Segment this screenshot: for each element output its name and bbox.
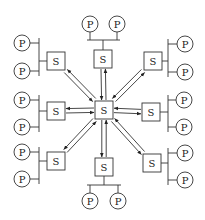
- processor-bottom: P: [82, 193, 98, 209]
- processor-label: P: [181, 122, 188, 133]
- switch-label: S: [100, 54, 107, 65]
- processor-label: P: [87, 196, 94, 207]
- link-out-upper-left: [67, 69, 95, 98]
- switch-label: S: [53, 156, 60, 167]
- link-in-lower-right: [115, 119, 145, 152]
- switch-upper-left: S: [47, 52, 65, 70]
- link-in-upper-right: [112, 69, 141, 98]
- link-in-lower-left: [67, 122, 96, 153]
- processor-lower-left: P: [14, 171, 30, 187]
- processor-upper-left: P: [14, 63, 30, 79]
- switch-label: S: [149, 158, 156, 169]
- switch-bottom: S: [95, 158, 113, 176]
- switch-label: S: [53, 56, 60, 67]
- switch-middle-right: S: [142, 103, 160, 121]
- processor-label: P: [114, 19, 121, 30]
- switch-label: S: [53, 106, 60, 117]
- switch-middle-left: S: [47, 102, 65, 120]
- link-in-top: [101, 69, 102, 100]
- switch-label: S: [101, 105, 108, 116]
- processor-lower-right: P: [177, 172, 193, 188]
- processor-label: P: [182, 148, 189, 159]
- link-out-lower-right: [111, 121, 141, 154]
- processor-label: P: [19, 147, 26, 158]
- processor-lower-left: P: [14, 144, 30, 160]
- processor-label: P: [19, 38, 26, 49]
- switch-upper-right: S: [144, 52, 162, 70]
- processor-label: P: [19, 66, 26, 77]
- processor-upper-left: P: [14, 35, 30, 51]
- link-out-top: [105, 69, 106, 100]
- processor-upper-right: P: [177, 36, 193, 52]
- processor-upper-right: P: [177, 64, 193, 80]
- switch-top: S: [94, 50, 112, 68]
- link-out-upper-right: [116, 73, 145, 102]
- link-in-middle-right: [114, 108, 141, 109]
- processor-label: P: [19, 95, 26, 106]
- switch-label: S: [150, 56, 157, 67]
- switch-lower-left: S: [47, 152, 65, 170]
- processor-label: P: [181, 95, 188, 106]
- processor-middle-left: P: [14, 92, 30, 108]
- processor-middle-right: P: [176, 119, 192, 135]
- star-network-diagram: SSSSSSSSSPPPPPPPPPPPPPPPP: [0, 0, 205, 220]
- processor-label: P: [87, 19, 94, 30]
- processor-label: P: [182, 39, 189, 50]
- switch-lower-right: S: [143, 154, 161, 172]
- link-out-lower-left: [64, 118, 93, 149]
- processor-lower-right: P: [177, 145, 193, 161]
- link-in-upper-left: [64, 73, 92, 102]
- processor-label: P: [19, 174, 26, 185]
- nodes: SSSSSSSSSPPPPPPPPPPPPPPPP: [14, 16, 193, 209]
- processor-middle-left: P: [14, 119, 30, 135]
- processor-top: P: [82, 16, 98, 32]
- center-switch: S: [95, 101, 113, 119]
- processor-top: P: [109, 16, 125, 32]
- link-in-middle-left: [66, 112, 94, 113]
- processor-bottom: P: [110, 193, 126, 209]
- processor-label: P: [182, 175, 189, 186]
- switch-label: S: [101, 162, 108, 173]
- processor-label: P: [182, 67, 189, 78]
- processor-middle-right: P: [176, 92, 192, 108]
- link-out-middle-right: [114, 113, 141, 114]
- processor-label: P: [19, 122, 26, 133]
- switch-label: S: [148, 107, 155, 118]
- link-out-middle-left: [66, 108, 94, 109]
- processor-label: P: [115, 196, 122, 207]
